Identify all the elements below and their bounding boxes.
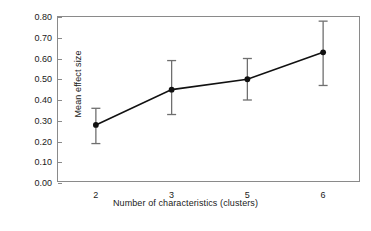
data-series <box>58 17 361 183</box>
data-point-marker <box>320 49 326 55</box>
data-point-marker <box>93 122 99 128</box>
data-point-marker <box>169 87 175 93</box>
x-axis-title: Number of characteristics (clusters) <box>0 198 371 208</box>
series-line <box>96 52 323 125</box>
chart-container: Mean effect size 0.800.700.600.500.400.3… <box>0 0 371 231</box>
y-axis-tick-mark <box>58 183 62 184</box>
data-point-marker <box>244 76 250 82</box>
plot-area: Mean effect size 0.800.700.600.500.400.3… <box>57 16 360 182</box>
